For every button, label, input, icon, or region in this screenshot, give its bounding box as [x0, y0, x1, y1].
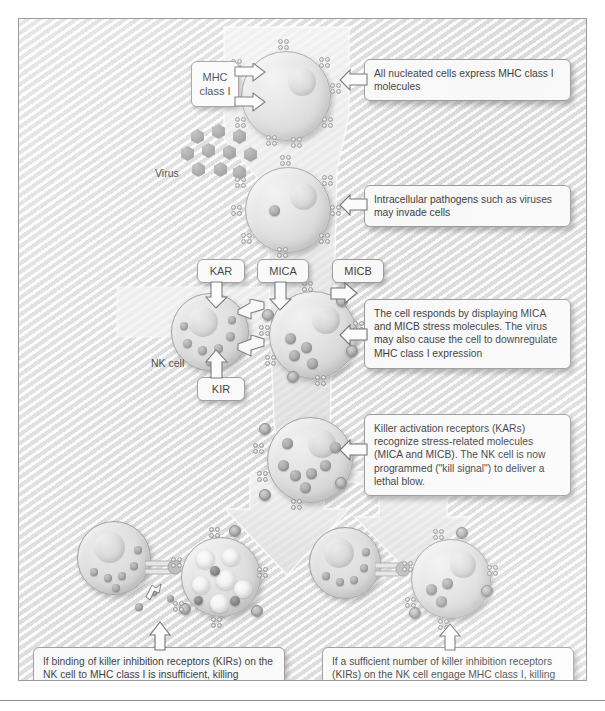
- nk-granule: [228, 316, 236, 324]
- mhc-class-i-molecule: [315, 375, 326, 386]
- mhc-class-i-molecule: [402, 561, 413, 572]
- mhc-class-i-molecule: [173, 601, 184, 612]
- nk-granule: [90, 568, 98, 576]
- nk-granule: [350, 576, 358, 584]
- callout-mica-micb-response: The cell responds by displaying MICA and…: [364, 299, 571, 369]
- nk-cell-bottom-left: [77, 521, 151, 595]
- mhc-class-i-molecule: [257, 471, 268, 482]
- mhc-class-i-molecule: [353, 321, 364, 332]
- cell-debris: [135, 603, 143, 611]
- label-kar: KAR: [197, 259, 245, 283]
- nk-granule: [130, 562, 138, 570]
- mhc-class-i-molecule: [291, 137, 302, 148]
- mhc-class-i-molecule: [235, 117, 246, 128]
- mhc-class-i-molecule: [280, 155, 291, 166]
- nk-granule: [336, 578, 344, 586]
- mhc-class-i-molecule: [265, 355, 276, 366]
- cell-1-nucleated: [241, 51, 331, 141]
- nk-bl-nucleus: [94, 532, 125, 563]
- mhc-class-i-molecule: [348, 443, 359, 454]
- cell-debris: [149, 587, 158, 596]
- callout-killing-aborted: If a sufficient number of killer inhibit…: [322, 647, 574, 681]
- mica-molecule: [287, 371, 299, 383]
- mica-molecule: [259, 423, 271, 435]
- intracellular-virion: [282, 438, 293, 449]
- mica-molecule: [262, 309, 274, 321]
- mhc-class-i-molecule: [319, 233, 330, 244]
- cell-2-nucleus: [290, 183, 317, 210]
- label-kir: KIR: [197, 377, 245, 401]
- nk-granule: [112, 584, 120, 592]
- mhc-class-i-molecule: [253, 443, 264, 454]
- intracellular-virion: [278, 460, 289, 471]
- micb-molecule: [409, 607, 421, 619]
- mhc-class-i-molecule: [322, 175, 333, 186]
- intracellular-virion: [320, 460, 331, 471]
- cell-debris: [167, 595, 174, 602]
- callout-killing-proceeds: If binding of killer inhibition receptor…: [33, 647, 285, 681]
- mhc-class-i-molecule: [278, 39, 289, 50]
- intracellular-virion: [436, 596, 447, 607]
- intracellular-virion: [442, 578, 453, 589]
- mhc-class-i-molecule: [171, 557, 182, 568]
- cell-6-nucleus: [450, 552, 476, 578]
- micb-molecule: [259, 489, 271, 501]
- nk-granule: [118, 572, 126, 580]
- nk-granule: [104, 574, 112, 582]
- mhc-class-i-molecule: [259, 325, 270, 336]
- label-mhc-class-i: MHC class I: [191, 61, 239, 107]
- label-mica: MICA: [257, 259, 309, 283]
- nk-granule: [226, 332, 235, 341]
- intracellular-virion: [307, 358, 318, 369]
- apoptotic-vacuole: [210, 594, 229, 613]
- intracellular-virion: [426, 584, 437, 595]
- intracellular-virion: [285, 333, 296, 344]
- mhc-class-i-molecule: [322, 117, 333, 128]
- mhc-class-i-molecule: [330, 205, 341, 216]
- micb-molecule: [346, 345, 358, 357]
- nk-cell-left-nucleus: [188, 307, 218, 337]
- nk-granule: [362, 548, 370, 556]
- mhc-class-i-molecule: [209, 527, 220, 538]
- mhc-class-i-molecule: [319, 57, 330, 68]
- nk-granule: [206, 358, 214, 366]
- figure-root: MHC class I All nucleated cells express …: [0, 0, 605, 711]
- footer-rule: [0, 700, 605, 701]
- mica-molecule: [229, 525, 241, 537]
- nk-granule: [214, 344, 223, 353]
- label-micb: MICB: [332, 259, 384, 283]
- mhc-class-i-molecule: [231, 205, 242, 216]
- label-nk-cell: NK cell: [151, 357, 184, 369]
- label-virus: Virus: [155, 167, 179, 179]
- mhc-class-i-molecule: [211, 617, 222, 628]
- mhc-class-i-molecule: [438, 619, 449, 630]
- cell-5-terminated: [181, 537, 261, 617]
- cell-6-surviving: [411, 539, 491, 619]
- mhc-class-i-molecule: [235, 177, 246, 188]
- nk-granule: [180, 322, 188, 330]
- nk-br-nucleus: [324, 538, 354, 568]
- mhc-class-i-molecule: [277, 247, 288, 258]
- degraded-virion: [210, 566, 220, 576]
- nk-cell-bottom-right: [309, 527, 381, 599]
- cell-4-engaged: [267, 417, 353, 503]
- mhc-class-i-molecule: [330, 83, 341, 94]
- intracellular-virion: [300, 482, 311, 493]
- micb-molecule: [335, 477, 347, 489]
- cell-3-nucleus: [312, 306, 340, 334]
- nk-granule: [183, 339, 192, 348]
- intracellular-virion: [290, 470, 301, 481]
- callout-all-nucleated-cells: All nucleated cells express MHC class I …: [364, 59, 571, 101]
- cell-1-nucleus: [288, 68, 316, 96]
- nk-granule: [198, 346, 207, 355]
- callout-intracellular-pathogens: Intracellular pathogens such as viruses …: [364, 185, 571, 227]
- mhc-class-i-molecule: [266, 135, 277, 146]
- mhc-class-i-molecule: [487, 565, 498, 576]
- nk-granule: [134, 546, 142, 554]
- nk-granule: [322, 572, 330, 580]
- label-mhc-class-i-line1: MHC: [202, 70, 227, 84]
- internalized-virion: [269, 205, 280, 216]
- callout-kar-kill-signal: Killer activation receptors (KARs) recog…: [364, 414, 571, 496]
- micb-molecule: [336, 295, 348, 307]
- mhc-class-i-molecule: [291, 499, 302, 510]
